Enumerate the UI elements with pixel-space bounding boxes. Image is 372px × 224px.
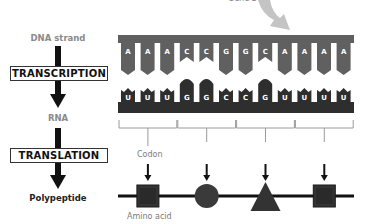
svg-text:U: U: [302, 94, 308, 102]
down-arrow-icon: [262, 164, 269, 181]
codon-bracket: [178, 120, 236, 142]
rna-base: G: [180, 79, 194, 102]
rna-base: C: [219, 88, 233, 102]
dna-backbone: [118, 35, 354, 43]
down-arrow-icon: [144, 164, 151, 181]
dna-base: A: [160, 43, 174, 75]
svg-text:A: A: [321, 48, 327, 56]
codon-bracket: [237, 120, 295, 142]
svg-text:G: G: [223, 48, 229, 56]
svg-text:A: A: [145, 48, 151, 56]
amino-acids: [137, 164, 335, 211]
rna-base: U: [317, 88, 331, 102]
dna-base: A: [121, 43, 135, 75]
codon-label: Codon: [137, 150, 163, 159]
svg-text:C: C: [184, 48, 189, 56]
rna-base: U: [160, 88, 174, 102]
svg-text:C: C: [204, 48, 209, 56]
rna-base: U: [141, 88, 155, 102]
dna-base: A: [297, 43, 311, 75]
dna-base: A: [278, 43, 292, 75]
dna-base: C: [180, 43, 194, 62]
rna-bases: UUUGGCCGUUUU: [121, 79, 351, 102]
svg-text:C: C: [263, 48, 268, 56]
svg-text:G: G: [204, 94, 210, 102]
diagram-main: AAACCGGCAAAA UUUGGCCGUUUU: [0, 0, 372, 224]
amino-acid-square-icon: [137, 185, 159, 207]
amino-acid-label: Amino acid: [127, 212, 172, 221]
rna-base: C: [239, 88, 253, 102]
amino-acid-circle-icon: [195, 184, 219, 208]
svg-text:A: A: [125, 48, 131, 56]
rna-backbone: [118, 102, 354, 113]
codon-brackets: [119, 120, 353, 146]
svg-text:U: U: [145, 94, 151, 102]
dna-base: A: [337, 43, 351, 75]
dna-base: C: [199, 43, 213, 62]
svg-text:G: G: [184, 94, 190, 102]
svg-text:G: G: [243, 48, 249, 56]
down-arrow-icon: [203, 164, 210, 181]
svg-text:A: A: [282, 48, 288, 56]
rna-base: U: [278, 88, 292, 102]
dna-base: C: [258, 43, 272, 62]
dna-bases: AAACCGGCAAAA: [121, 43, 351, 75]
dna-base: G: [219, 43, 233, 75]
rna-base: G: [258, 79, 272, 102]
svg-text:U: U: [164, 94, 170, 102]
svg-text:U: U: [282, 94, 288, 102]
svg-text:U: U: [321, 94, 327, 102]
rna-base: U: [121, 88, 135, 102]
amino-acid-square-icon: [313, 185, 335, 207]
codon-bracket: [119, 120, 177, 146]
down-arrow-icon: [321, 164, 328, 181]
rna-base: U: [337, 88, 351, 102]
svg-text:A: A: [164, 48, 170, 56]
codon-bracket: [295, 120, 353, 142]
svg-text:C: C: [243, 94, 248, 102]
svg-text:U: U: [125, 94, 131, 102]
dna-base: A: [141, 43, 155, 75]
svg-text:C: C: [223, 94, 228, 102]
svg-text:U: U: [341, 94, 347, 102]
svg-text:A: A: [302, 48, 308, 56]
dna-base: G: [239, 43, 253, 75]
svg-text:A: A: [341, 48, 347, 56]
rna-base: G: [199, 79, 213, 102]
svg-text:G: G: [262, 94, 268, 102]
dna-base: A: [317, 43, 331, 75]
rna-base: U: [297, 88, 311, 102]
